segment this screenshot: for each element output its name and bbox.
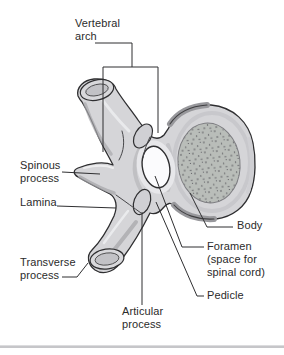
label-pedicle: Pedicle <box>207 289 244 302</box>
label-articular-process: Articular process <box>122 305 163 331</box>
figure-canvas: Vertebral arch Spinous process Lamina Tr… <box>0 0 284 355</box>
label-lamina: Lamina <box>20 196 57 209</box>
leader-lamina <box>57 206 116 208</box>
bottom-divider <box>0 345 284 348</box>
label-spinous-process: Spinous process <box>20 159 60 185</box>
label-vertebral-arch: Vertebral arch <box>75 17 120 43</box>
label-transverse-process: Transverse process <box>20 256 76 282</box>
label-foramen: Foramen (space for spinal cord) <box>207 240 265 279</box>
label-body: Body <box>237 219 262 232</box>
